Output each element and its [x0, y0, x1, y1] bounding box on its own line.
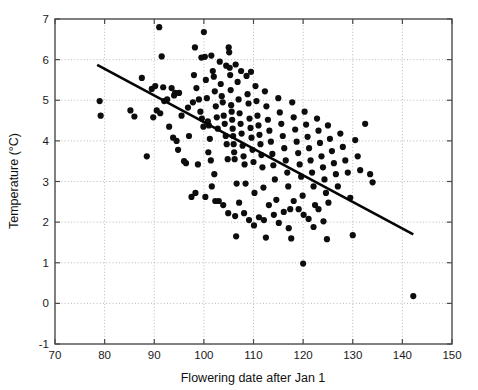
data-point	[318, 153, 324, 159]
data-point	[296, 206, 302, 212]
data-point	[236, 200, 242, 206]
data-point	[219, 93, 225, 99]
data-point	[331, 160, 337, 166]
data-point	[291, 198, 297, 204]
data-point	[210, 68, 216, 74]
data-point	[208, 52, 214, 58]
data-point	[305, 216, 311, 222]
data-point	[244, 91, 250, 97]
x-tick-label: 110	[244, 349, 262, 361]
data-point	[291, 114, 297, 120]
y-tick-label: 3	[43, 176, 49, 188]
data-point	[217, 59, 223, 65]
data-point	[335, 183, 341, 189]
data-point	[301, 212, 307, 218]
data-point	[200, 124, 206, 130]
data-point	[127, 107, 133, 113]
data-point	[152, 83, 158, 89]
data-point	[257, 141, 263, 147]
data-point	[252, 83, 258, 89]
data-point	[198, 54, 204, 60]
data-point	[191, 72, 197, 78]
data-point	[278, 121, 284, 127]
data-point	[238, 130, 244, 136]
x-tick-label: 140	[393, 349, 412, 361]
data-point	[150, 114, 156, 120]
data-point	[269, 151, 275, 157]
data-point	[287, 206, 293, 212]
data-point	[170, 135, 176, 141]
x-tick-label: 130	[343, 349, 362, 361]
data-point	[410, 293, 416, 299]
data-point	[367, 171, 373, 177]
data-point	[222, 121, 228, 127]
x-tick-label: 120	[294, 349, 313, 361]
data-point	[205, 149, 211, 155]
data-point	[157, 110, 163, 116]
data-point	[196, 96, 202, 102]
data-point	[197, 109, 203, 115]
data-point	[303, 122, 309, 128]
data-point	[266, 202, 272, 208]
data-point	[302, 109, 308, 115]
data-point	[270, 162, 276, 168]
data-point	[193, 85, 199, 91]
data-point	[283, 157, 289, 163]
data-point	[300, 193, 306, 199]
data-point	[255, 122, 261, 128]
data-point	[285, 183, 291, 189]
data-point	[325, 122, 331, 128]
data-point	[342, 157, 348, 163]
data-point	[357, 167, 363, 173]
data-point	[324, 236, 330, 242]
y-tick-label: 6	[43, 54, 49, 66]
x-tick-label: 70	[49, 349, 62, 361]
data-point	[246, 217, 252, 223]
data-point	[268, 139, 274, 145]
data-point	[220, 202, 226, 208]
y-tick-label: 0	[43, 297, 49, 309]
data-point	[247, 125, 253, 131]
data-point	[333, 171, 339, 177]
data-point	[192, 44, 198, 50]
x-tick-label: 90	[148, 349, 161, 361]
data-point	[229, 117, 235, 123]
data-point	[317, 140, 323, 146]
data-point	[192, 190, 198, 196]
data-point	[345, 169, 351, 175]
data-point	[159, 53, 165, 59]
data-point	[340, 144, 346, 150]
x-tick-label: 80	[98, 349, 111, 361]
y-tick-label: 2	[43, 216, 49, 228]
data-point	[263, 103, 269, 109]
data-point	[223, 63, 229, 69]
data-point	[284, 169, 290, 175]
data-point	[288, 235, 294, 241]
data-point	[175, 147, 181, 153]
data-point	[262, 88, 268, 94]
data-point	[315, 128, 321, 134]
data-point	[320, 164, 326, 170]
chart-background	[0, 0, 478, 390]
data-point	[310, 183, 316, 189]
data-point	[292, 126, 298, 132]
data-point	[212, 88, 218, 94]
data-point	[231, 141, 237, 147]
data-point	[176, 90, 182, 96]
data-point	[294, 139, 300, 145]
data-point	[183, 160, 189, 166]
data-point	[295, 150, 301, 156]
data-point	[350, 232, 356, 238]
data-point	[297, 161, 303, 167]
data-point	[225, 210, 231, 216]
data-point	[208, 157, 214, 163]
data-point	[212, 198, 218, 204]
data-point	[233, 61, 239, 67]
y-tick-label: -1	[39, 338, 49, 350]
data-point	[310, 224, 316, 230]
data-point	[201, 29, 207, 35]
data-point	[204, 95, 210, 101]
data-point	[211, 74, 217, 80]
data-point	[195, 161, 201, 167]
data-point	[235, 79, 241, 85]
